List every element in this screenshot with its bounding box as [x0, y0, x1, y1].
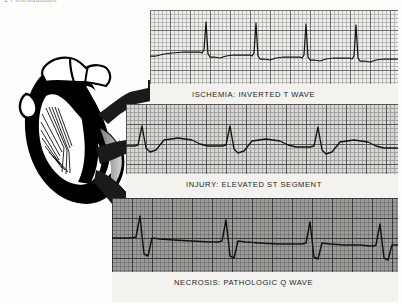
ecg-strip-necrosis: NECROSIS: PATHOLOGIC Q WAVE [112, 198, 398, 302]
caption-injury: INJURY: ELEVATED ST SEGMENT [186, 180, 322, 189]
caption-ischemia: ISCHEMIA: INVERTED T WAVE [192, 90, 315, 99]
ecg-trace-ischemia [150, 10, 398, 84]
ecg-strip-ischemia: ISCHEMIA: INVERTED T WAVE [150, 10, 398, 114]
figure-page: 1 / Introduction [0, 0, 402, 304]
ecg-trace-necrosis [112, 198, 398, 272]
caption-necrosis: NECROSIS: PATHOLOGIC Q WAVE [174, 278, 313, 287]
ecg-trace-injury [126, 104, 398, 174]
caption-band-necrosis [112, 272, 398, 302]
running-head: 1 / Introduction [4, 0, 57, 3]
ecg-strip-injury: INJURY: ELEVATED ST SEGMENT [126, 104, 398, 204]
